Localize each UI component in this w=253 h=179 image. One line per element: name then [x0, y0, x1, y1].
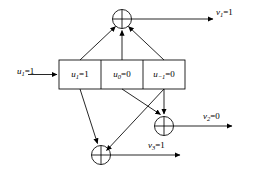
cell-2-value: 0: [126, 69, 131, 79]
input-label-value: 1: [30, 66, 35, 76]
encoder-diagram: u1=1 u1=1 u0=0 u−1=0 v1=1 v2=0 v3=1: [0, 0, 253, 179]
v2-value: 0: [215, 111, 220, 121]
output-label-v2: v2=0: [203, 112, 220, 122]
tap-cell1-to-bottom-adder: [80, 89, 98, 144]
register-cell-2: u0=0: [113, 70, 130, 80]
output-label-v3: v3=1: [148, 141, 165, 151]
v1-value: 1: [228, 7, 233, 17]
v3-value: 1: [160, 140, 165, 150]
cell-3-subscript: −1: [158, 73, 166, 80]
cell-3-value: 0: [170, 69, 175, 79]
register-cell-1: u1=1: [71, 70, 88, 80]
tap-cell1-to-top-adder: [80, 27, 116, 61]
output-label-v1: v1=1: [216, 8, 233, 18]
input-label: u1=1: [17, 67, 34, 77]
tap-cell3-to-top-adder: [129, 27, 165, 61]
tap-cell2-to-middle-adder: [122, 89, 161, 115]
cell-1-value: 1: [84, 69, 89, 79]
diagram-canvas: [0, 0, 253, 179]
register-cell-3: u−1=0: [153, 70, 175, 80]
